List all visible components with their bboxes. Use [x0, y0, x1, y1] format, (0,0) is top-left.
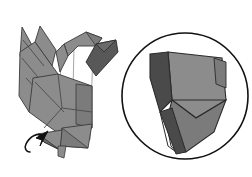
diagram-canvas: [0, 0, 252, 177]
magnified-detail-circle: [122, 33, 248, 159]
origami-diagram-figure: Origami bird fold step with magnified de…: [0, 0, 252, 177]
detail-corner-notch: [214, 58, 226, 88]
body-side-panel: [76, 84, 92, 128]
